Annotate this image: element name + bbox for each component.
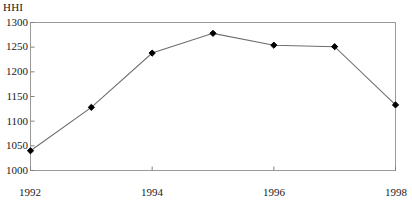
data-series-line <box>31 33 396 150</box>
data-point-marker <box>271 42 277 48</box>
plot-frame <box>31 23 396 171</box>
plot-frame-rect <box>31 23 396 171</box>
data-point-markers <box>27 30 398 154</box>
data-point-marker <box>210 30 216 36</box>
x-axis-tick-marks <box>31 167 396 171</box>
